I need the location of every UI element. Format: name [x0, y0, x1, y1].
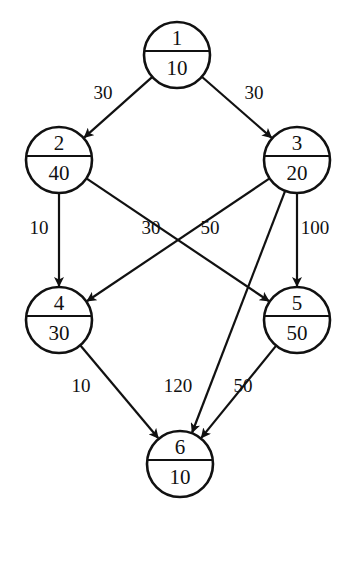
node-weight: 50 — [287, 321, 308, 345]
node-id: 2 — [54, 131, 65, 155]
edge-label-3-to-5: 100 — [301, 217, 330, 238]
node-5: 550 — [264, 287, 330, 353]
node-weight: 40 — [49, 161, 70, 185]
node-1: 110 — [144, 22, 210, 88]
edge-label-5-to-6: 50 — [234, 375, 253, 396]
node-id: 1 — [172, 26, 183, 50]
node-weight: 30 — [49, 321, 70, 345]
task-graph-diagram: 110240320430550610 30301030501001201050 — [0, 0, 357, 585]
node-id: 6 — [175, 435, 186, 459]
edge-label-2-to-4: 10 — [30, 217, 49, 238]
node-weight: 10 — [170, 465, 191, 489]
edge-label-2-to-5: 30 — [142, 217, 161, 238]
node-3: 320 — [264, 127, 330, 193]
node-id: 3 — [292, 131, 303, 155]
edge-4-to-6 — [80, 345, 158, 438]
edge-label-3-to-6: 120 — [164, 375, 193, 396]
node-id: 5 — [292, 291, 303, 315]
edge-label-1-to-3: 30 — [245, 82, 264, 103]
nodes-layer: 110240320430550610 — [26, 22, 330, 497]
edge-label-3-to-4: 50 — [201, 217, 220, 238]
node-weight: 10 — [167, 56, 188, 80]
node-6: 610 — [147, 431, 213, 497]
node-4: 430 — [26, 287, 92, 353]
node-weight: 20 — [287, 161, 308, 185]
node-2: 240 — [26, 127, 92, 193]
edge-label-1-to-2: 30 — [94, 82, 113, 103]
edge-label-4-to-6: 10 — [72, 375, 91, 396]
node-id: 4 — [54, 291, 65, 315]
